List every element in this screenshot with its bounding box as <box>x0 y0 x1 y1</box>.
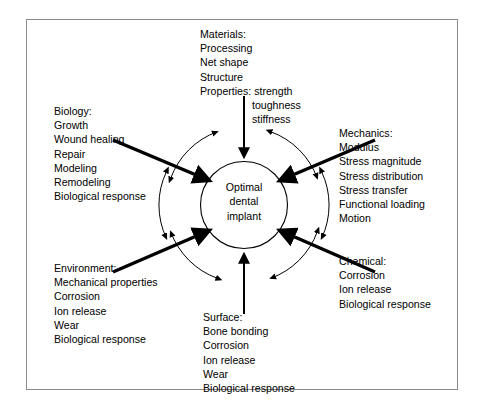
block-environment-heading: Environment: <box>54 261 158 275</box>
block-surface-item-4: Biological response <box>203 381 295 395</box>
block-environment-item-1: Corrosion <box>54 289 158 303</box>
block-mechanics-item-4: Functional loading <box>339 197 425 211</box>
block-environment: Environment: Mechanical properties Corro… <box>54 261 158 346</box>
block-chemical: Chemical: Corrosion Ion release Biologic… <box>339 254 431 311</box>
center-hub-label: Optimal dental implant <box>206 180 282 223</box>
block-materials-item-0: Processing <box>200 41 301 55</box>
block-materials-properties-label: Properties: <box>200 84 251 98</box>
block-mechanics-item-3: Stress transfer <box>339 183 425 197</box>
center-line-1: Optimal <box>206 180 282 194</box>
block-biology-item-4: Remodeling <box>54 175 146 189</box>
block-environment-item-2: Ion release <box>54 304 158 318</box>
block-materials-heading: Materials: <box>200 27 301 41</box>
block-biology: Biology: Growth Wound healing Repair Mod… <box>54 104 146 203</box>
block-materials-property-2: stiffness <box>252 112 301 126</box>
block-biology-item-5: Biological response <box>54 189 146 203</box>
block-materials-property-0: strength <box>254 85 292 97</box>
block-environment-item-3: Wear <box>54 318 158 332</box>
center-line-2: dental <box>206 194 282 208</box>
block-surface: Surface: Bone bonding Corrosion Ion rele… <box>203 310 295 395</box>
block-biology-heading: Biology: <box>54 104 146 118</box>
block-surface-item-3: Wear <box>203 367 295 381</box>
block-mechanics-item-2: Stress distribution <box>339 169 425 183</box>
block-surface-heading: Surface: <box>203 310 295 324</box>
block-surface-item-2: Ion release <box>203 353 295 367</box>
block-biology-item-0: Growth <box>54 118 146 132</box>
block-materials-properties-row: Properties: strength <box>200 84 301 98</box>
figure-root: Optimal dental implant Materials: Proces… <box>0 0 482 409</box>
block-chemical-item-0: Corrosion <box>339 268 431 282</box>
block-biology-item-1: Wound healing <box>54 132 146 146</box>
block-materials-item-2: Structure <box>200 70 301 84</box>
block-materials-item-1: Net shape <box>200 55 301 69</box>
block-chemical-heading: Chemical: <box>339 254 431 268</box>
block-biology-item-3: Modeling <box>54 161 146 175</box>
block-materials: Materials: Processing Net shape Structur… <box>200 27 301 126</box>
block-surface-item-0: Bone bonding <box>203 324 295 338</box>
block-environment-item-4: Biological response <box>54 332 158 346</box>
center-line-3: implant <box>206 209 282 223</box>
block-biology-item-2: Repair <box>54 147 146 161</box>
block-mechanics-item-0: Modulus <box>339 140 425 154</box>
block-materials-property-1: toughness <box>252 98 301 112</box>
block-mechanics-item-5: Motion <box>339 211 425 225</box>
block-mechanics-heading: Mechanics: <box>339 126 425 140</box>
block-mechanics-item-1: Stress magnitude <box>339 154 425 168</box>
block-mechanics: Mechanics: Modulus Stress magnitude Stre… <box>339 126 425 225</box>
block-chemical-item-2: Biological response <box>339 297 431 311</box>
block-chemical-item-1: Ion release <box>339 282 431 296</box>
block-environment-item-0: Mechanical properties <box>54 275 158 289</box>
block-surface-item-1: Corrosion <box>203 338 295 352</box>
